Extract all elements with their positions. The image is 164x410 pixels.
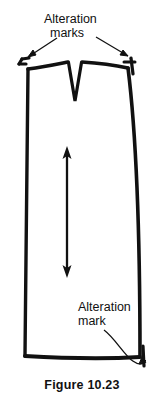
figure-caption: Figure 10.23	[0, 378, 164, 392]
center-front-dart	[69, 63, 82, 102]
label-alteration-mark-line2: mark	[78, 314, 131, 328]
label-alteration-marks-line2: marks	[50, 26, 97, 40]
label-alteration-marks-line1: Alteration	[44, 12, 97, 26]
skirt-left-side-seam	[25, 69, 28, 356]
left-waist-alteration-mark	[19, 58, 29, 64]
label-alteration-mark-line1: Alteration	[78, 300, 131, 314]
skirt-hem-line	[25, 356, 140, 358]
skirt-waistline-right	[82, 62, 128, 68]
leader-arrow-to-right-mark	[96, 37, 128, 56]
grainline-double-arrow	[63, 146, 72, 278]
skirt-waistline-left	[28, 62, 68, 69]
label-alteration-mark-bottom: Alteration mark	[78, 300, 131, 328]
skirt-pattern-drawing	[0, 0, 164, 410]
leader-arrow-to-left-mark	[28, 38, 57, 57]
label-alteration-marks: Alteration marks	[44, 12, 97, 40]
figure-container: Alteration marks Alteration mark Figure …	[0, 0, 164, 410]
